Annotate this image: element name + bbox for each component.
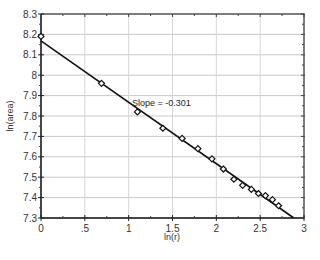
y-tick-label: 7.3 <box>23 213 37 224</box>
x-tick-label: 2 <box>214 223 220 234</box>
fit-line <box>41 41 293 218</box>
y-tick-label: 8 <box>31 70 37 81</box>
data-point <box>195 146 201 152</box>
axis-ticks: 7.37.47.57.67.77.87.988.18.28.30.511.522… <box>23 9 307 235</box>
y-tick-label: 8.2 <box>23 29 37 40</box>
y-tick-label: 7.4 <box>23 192 37 203</box>
data-points <box>38 33 282 208</box>
regression-line <box>41 41 293 218</box>
y-tick-label: 7.5 <box>23 172 37 183</box>
x-tick-label: 0 <box>38 223 44 234</box>
x-tick-label: 3 <box>301 223 307 234</box>
x-axis-label: ln(r) <box>164 232 180 242</box>
x-tick-label: 2.5 <box>253 223 267 234</box>
y-tick-label: 7.9 <box>23 90 37 101</box>
y-tick-label: 7.8 <box>23 111 37 122</box>
scatter-chart: 7.37.47.57.67.77.87.988.18.28.30.511.522… <box>0 0 320 260</box>
slope-annotation: Slope = -0.301 <box>132 98 191 108</box>
y-tick-label: 8.3 <box>23 9 37 20</box>
y-tick-label: 7.6 <box>23 151 37 162</box>
grid-lines <box>41 14 304 218</box>
y-tick-label: 8.1 <box>23 49 37 60</box>
y-tick-label: 7.7 <box>23 131 37 142</box>
y-axis-label: ln(area) <box>5 100 15 131</box>
data-point <box>160 125 166 131</box>
x-tick-label: 1 <box>126 223 132 234</box>
x-tick-label: .5 <box>81 223 90 234</box>
